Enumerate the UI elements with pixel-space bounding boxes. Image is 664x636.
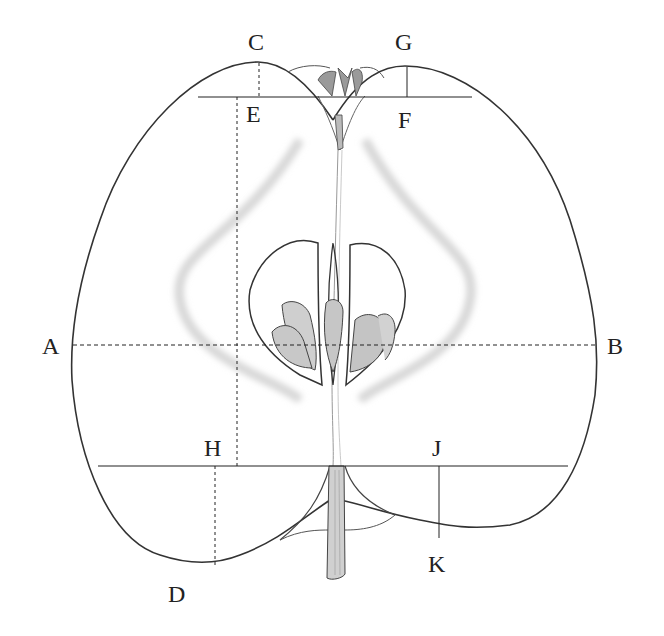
label-c: C (248, 30, 264, 54)
label-h: H (204, 436, 221, 460)
label-g: G (395, 30, 412, 54)
apple-cross-section-drawing (0, 0, 664, 636)
label-a: A (42, 334, 59, 358)
stem (327, 466, 345, 579)
label-e: E (246, 102, 261, 126)
label-b: B (607, 334, 623, 358)
apple-diagram: A B C D E F G H J K (0, 0, 664, 636)
core-line-shadow (179, 140, 471, 400)
label-f: F (398, 108, 411, 132)
calyx-sepals (318, 68, 362, 96)
label-d: D (168, 582, 185, 606)
label-k: K (428, 552, 445, 576)
apple-outline-right (333, 66, 597, 527)
label-j: J (432, 436, 441, 460)
seed (324, 300, 343, 372)
